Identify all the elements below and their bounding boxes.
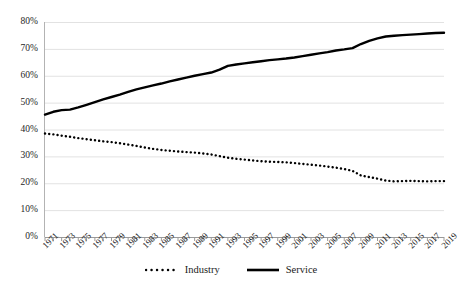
legend-swatch-dotted-icon [145,265,179,275]
chart-legend: Industry Service [0,265,462,276]
legend-item-industry[interactable]: Industry [145,265,220,276]
y-axis-tick-label: 80% [2,17,38,27]
y-axis-tick-label: 60% [2,71,38,81]
y-axis-tick-label: 0% [2,232,38,242]
y-axis-tick-label: 10% [2,205,38,215]
legend-label-industry: Industry [185,265,220,276]
gridlines [45,23,444,238]
y-axis-tick-label: 70% [2,44,38,54]
series-line-service [45,33,444,115]
legend-swatch-solid-icon [246,265,280,275]
y-axis-tick-label: 50% [2,98,38,108]
y-axis-tick-label: 20% [2,178,38,188]
y-axis-tick-label: 30% [2,151,38,161]
line-chart: 0%10%20%30%40%50%60%70%80% 1971197319751… [0,0,462,289]
series-line-industry [45,134,444,182]
legend-label-service: Service [286,265,318,276]
legend-item-service[interactable]: Service [246,265,318,276]
y-axis-tick-label: 40% [2,125,38,135]
